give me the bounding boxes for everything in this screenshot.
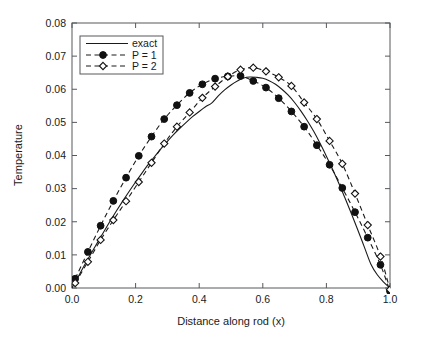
y-tick-label: 0.05 xyxy=(46,116,67,128)
x-tick-label: 0.4 xyxy=(192,293,207,305)
legend-marker-1 xyxy=(100,52,107,59)
y-tick-label: 0.01 xyxy=(46,249,67,261)
data-point-marker xyxy=(263,84,270,91)
data-point-marker xyxy=(148,133,155,140)
data-point-marker xyxy=(313,142,320,149)
data-point-marker xyxy=(212,75,219,82)
x-tick-label: 0.0 xyxy=(65,293,80,305)
x-tick-label: 0.8 xyxy=(319,293,334,305)
data-point-marker xyxy=(199,81,206,88)
data-point-marker xyxy=(339,185,346,192)
y-tick-label: 0.00 xyxy=(46,282,67,294)
chart-figure: 0.00.20.40.60.81.0 0.000.010.020.030.040… xyxy=(0,0,429,345)
data-point-marker xyxy=(85,248,92,255)
chart-legend: exactP = 1P = 2 xyxy=(80,36,163,74)
x-tick-label: 0.2 xyxy=(128,293,143,305)
y-tick-label: 0.06 xyxy=(46,83,67,95)
data-point-marker xyxy=(161,116,168,123)
y-tick-label: 0.02 xyxy=(46,216,67,228)
data-point-marker xyxy=(110,197,117,204)
x-tick-label: 1.0 xyxy=(383,293,398,305)
legend-label-0: exact xyxy=(132,37,157,49)
data-point-marker xyxy=(123,174,130,181)
y-tick-label: 0.08 xyxy=(46,17,67,29)
y-tick-label: 0.07 xyxy=(46,50,67,62)
data-point-marker xyxy=(326,161,333,168)
data-point-marker xyxy=(174,102,181,109)
data-point-marker xyxy=(135,152,142,159)
y-axis-title: Temperature xyxy=(12,124,24,186)
data-point-marker xyxy=(288,108,295,115)
data-point-marker xyxy=(364,234,371,241)
data-point-marker xyxy=(301,123,308,130)
y-tick-label: 0.04 xyxy=(46,149,67,161)
data-point-marker xyxy=(352,209,359,216)
y-tick-label: 0.03 xyxy=(46,182,67,194)
data-point-marker xyxy=(275,95,282,102)
x-tick-label: 0.6 xyxy=(255,293,270,305)
x-axis-title: Distance along rod (x) xyxy=(177,315,285,327)
temperature-distribution-chart: 0.00.20.40.60.81.0 0.000.010.020.030.040… xyxy=(0,0,429,345)
data-point-marker xyxy=(97,222,104,229)
data-point-marker xyxy=(186,89,193,96)
data-point-marker xyxy=(250,78,257,85)
y-axis-tick-labels: 0.000.010.020.030.040.050.060.070.08 xyxy=(46,17,67,294)
legend-label-2: P = 2 xyxy=(132,60,157,72)
